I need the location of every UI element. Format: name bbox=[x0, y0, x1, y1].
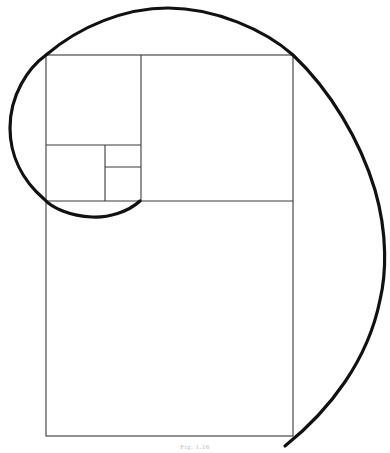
outer-golden-rectangle bbox=[46, 55, 293, 436]
golden-spiral-curve bbox=[10, 8, 385, 446]
golden-spiral-diagram bbox=[0, 0, 390, 453]
figure-caption: Fig. 1.16 bbox=[0, 443, 390, 451]
